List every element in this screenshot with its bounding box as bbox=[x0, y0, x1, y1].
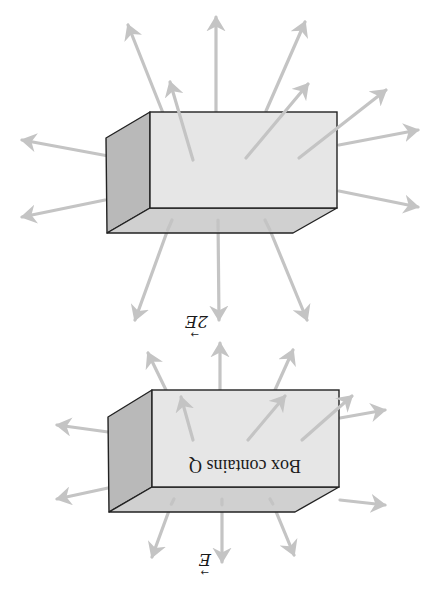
field-label-text: E bbox=[198, 550, 212, 570]
field-arrow bbox=[148, 353, 166, 390]
gauss-law-boxes-figure: 2E→ E→Box contains Q bbox=[0, 0, 447, 605]
box-E-panel: E→Box contains Q bbox=[57, 343, 385, 578]
field-label: 2E→ bbox=[184, 312, 209, 340]
box-2E-panel: 2E→ bbox=[22, 17, 418, 340]
field-label: E→ bbox=[198, 550, 212, 578]
field-arrow bbox=[57, 488, 108, 499]
box-caption: Box contains Q bbox=[189, 456, 301, 476]
field-arrow bbox=[340, 500, 385, 505]
vector-arrow-icon: → bbox=[201, 567, 209, 578]
field-arrow bbox=[128, 25, 163, 113]
box-front-face bbox=[150, 112, 337, 208]
field-arrow bbox=[275, 350, 293, 390]
field-arrow bbox=[22, 200, 105, 217]
field-arrow bbox=[339, 130, 418, 145]
vector-arrow-icon: → bbox=[191, 329, 199, 340]
field-arrow bbox=[339, 191, 418, 207]
box-caption-text: Box contains Q bbox=[189, 456, 301, 476]
field-arrow bbox=[266, 22, 305, 111]
field-label-text: 2E bbox=[184, 312, 209, 332]
field-arrow bbox=[340, 410, 385, 418]
